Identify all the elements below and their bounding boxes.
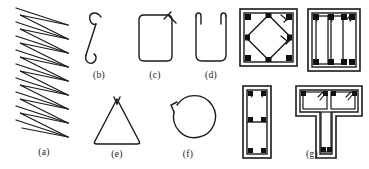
section-square-with-diamond-tie	[240, 9, 297, 66]
panel-e-label: (e)	[111, 149, 122, 160]
panel-f-label: (f)	[183, 149, 193, 160]
panel-d-label: (d)	[205, 70, 217, 81]
panel-c-label: (c)	[149, 70, 160, 81]
section-rect-with-two-inner-ties	[308, 9, 360, 71]
panel-b-label: (b)	[93, 70, 105, 81]
rect-outer-stirrup	[312, 13, 356, 67]
panel-g-label: (g)	[306, 149, 318, 160]
section-narrow-rect-two-cells	[243, 86, 271, 158]
figure-canvas: (a) (b) (c) (d) (e) (f)	[0, 0, 369, 169]
stirrup-types-figure: (a) (b) (c) (d) (e) (f)	[0, 0, 369, 169]
panel-a-label: (a)	[38, 147, 49, 158]
